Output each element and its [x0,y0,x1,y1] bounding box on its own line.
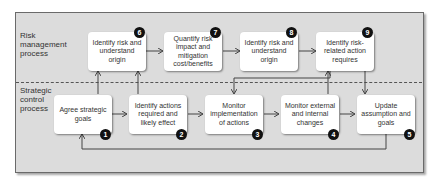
step-badge-7: 7 [210,27,221,38]
step-badge-3: 3 [252,129,263,140]
box-label: Identify risk and understand origin [242,39,296,65]
box-label: Quantify risk impact and mitigation cost… [166,35,220,69]
box-label: Monitor external and internal changes [283,102,337,128]
box-label: Monitor implementation of actions [207,102,261,128]
box-5-update-goals: Update assumption and goals [357,95,415,134]
box-label: Update assumption and goals [359,102,413,128]
box-4-monitor-changes: Monitor external and internal changes [281,95,339,134]
box-label: Identify risk-related action requires [318,39,372,65]
box-label: Identify risk and understand origin [90,39,144,65]
box-3-monitor-implementation: Monitor implementation of actions [205,95,263,134]
box-label: Agree strategic goals [56,106,110,123]
connector-arrows [0,0,440,179]
step-badge-6: 6 [134,27,145,38]
step-badge-9: 9 [362,27,373,38]
step-badge-5: 5 [404,129,415,140]
step-badge-8: 8 [286,27,297,38]
step-badge-1: 1 [100,129,111,140]
box-label: Identify actions required and likely eff… [131,102,185,128]
box-2-identify-actions: Identify actions required and likely eff… [129,95,187,134]
step-badge-2: 2 [176,129,187,140]
step-badge-4: 4 [328,129,339,140]
